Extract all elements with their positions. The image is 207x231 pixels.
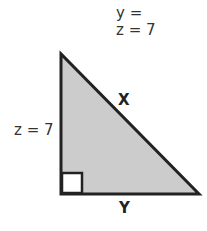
base-label: Y (119, 200, 130, 216)
left-side-label: z = 7 (14, 122, 54, 138)
diagram-canvas: y = z = 7 z = 7 X Y (0, 0, 207, 231)
right-triangle (0, 0, 207, 231)
hypotenuse-label: X (118, 92, 130, 108)
right-angle-icon (62, 173, 82, 193)
